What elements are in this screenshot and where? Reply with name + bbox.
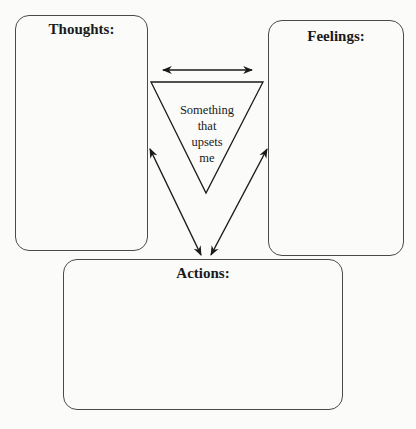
center-line-4: me <box>170 150 244 166</box>
center-label: Something that upsets me <box>170 102 244 166</box>
center-line-2: that <box>170 118 244 134</box>
center-line-1: Something <box>170 102 244 118</box>
center-line-3: upsets <box>170 134 244 150</box>
diagram-shapes <box>0 0 416 429</box>
